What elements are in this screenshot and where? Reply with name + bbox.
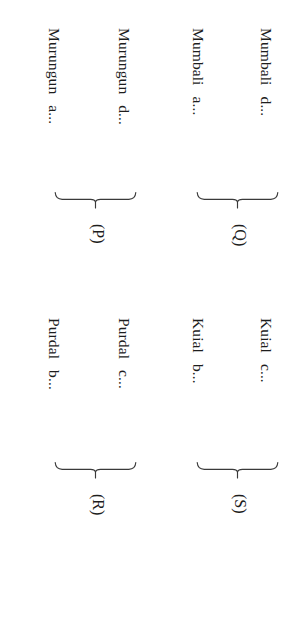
entry-S-2: Kuialc... [259,318,275,383]
entry-Q-2: Mumbalid... [259,28,275,116]
entry-name: Mumbali [190,28,207,86]
brace-Q [196,191,279,213]
group-S: Kuialb... Kuialc... (S) [0,318,284,558]
entry-name: Mumbali [258,28,275,86]
entry-tail: a... [190,97,207,116]
rotated-page-stage: Murunguna... Murungund... (P) Mumbalia..… [0,0,284,638]
entry-tail: d... [258,97,275,117]
entry-tail: c... [258,364,275,383]
entry-Q-1: Mumbalia... [191,28,207,115]
group-Q: Mumbalia... Mumbalid... (Q) [0,28,284,268]
entry-S-1: Kuialb... [191,318,207,384]
entry-name: Kuial [258,318,275,353]
group-label-Q: (Q) [232,224,248,246]
group-label-S: (S) [232,494,248,514]
entry-tail: b... [190,364,207,384]
brace-S [196,461,279,483]
entry-name: Kuial [190,318,207,353]
